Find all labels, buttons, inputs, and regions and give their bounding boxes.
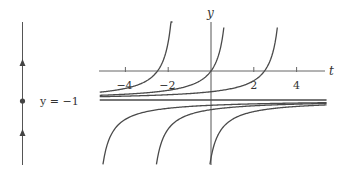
y-axis-label: y (206, 6, 214, 20)
solution-curves (100, 22, 327, 164)
arrow-up-icon (20, 59, 26, 66)
t-axis-label: t (329, 64, 334, 78)
arrow-up-icon (20, 129, 26, 136)
phase-line: y = −1 (20, 22, 79, 165)
equilibrium-dot (20, 98, 25, 103)
solution-curve (156, 103, 326, 164)
solution-curve (210, 105, 327, 165)
chart-canvas: y = −1 y t −4−224 (0, 0, 344, 177)
x-tick-label: 4 (293, 79, 300, 92)
solution-curve (103, 103, 327, 165)
equilibrium-label: y = −1 (39, 95, 79, 108)
figure: y = −1 y t −4−224 (0, 0, 344, 177)
